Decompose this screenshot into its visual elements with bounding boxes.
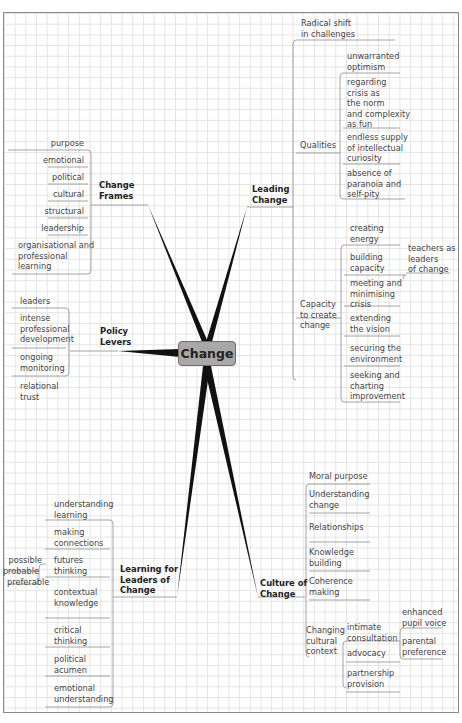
leaf-absence-of-paranoia[interactable]: absence of paranoia and self-pity xyxy=(347,168,401,200)
leaf-partnership-provision[interactable]: partnership provision xyxy=(347,668,394,689)
leaf-text-line: critical xyxy=(54,625,87,636)
leaf-understanding-change[interactable]: Understanding change xyxy=(309,489,369,510)
branch-label-line: Learning for xyxy=(120,564,178,575)
leaf-meeting-minimising-crisis[interactable]: meeting and minimising crisis xyxy=(350,278,402,310)
leaf-parental-preference[interactable]: parental preference xyxy=(402,636,446,657)
leaf-knowledge-building[interactable]: Knowledge building xyxy=(309,547,354,568)
leaf-text-line: creating xyxy=(350,223,384,234)
leaf-text-line: organisational and xyxy=(18,240,94,251)
leaf-critical-thinking[interactable]: critical thinking xyxy=(54,625,87,646)
branch-label-line: Change xyxy=(99,180,134,191)
node-text-line: Capacity xyxy=(300,299,337,310)
leaf-text-line: thinking xyxy=(54,566,87,577)
leaf-leaders[interactable]: leaders xyxy=(20,296,50,307)
leaf-text-line: and complexity xyxy=(347,109,410,120)
leaf-text-line: acumen xyxy=(54,665,87,676)
central-topic-change[interactable]: Change xyxy=(178,341,236,366)
leaf-text-line: Coherence xyxy=(309,576,353,587)
leaf-text-line: of intellectual xyxy=(347,143,408,154)
leaf-ongoing-monitoring[interactable]: ongoing monitoring xyxy=(20,352,65,373)
node-text-line: Changing xyxy=(306,625,345,636)
branch-leading-change[interactable]: Leading Change xyxy=(252,184,290,205)
leaf-text-line: charting xyxy=(350,381,405,392)
leaf-text-line: political xyxy=(54,654,87,665)
leaf-text-line: paranoia and xyxy=(347,179,401,190)
node-changing-cultural-context[interactable]: Changing cultural context xyxy=(306,625,345,657)
leaf-relationships[interactable]: Relationships xyxy=(309,522,364,533)
leaf-emotional[interactable]: emotional xyxy=(30,155,84,166)
node-radical-shift[interactable]: Radical shift in challenges xyxy=(301,18,355,39)
leaf-text-line: optimism xyxy=(347,62,399,73)
leaf-purpose[interactable]: purpose xyxy=(30,138,84,149)
leaf-teachers-as-leaders[interactable]: teachers as leaders of change xyxy=(408,243,456,275)
leaf-contextual-knowledge[interactable]: contextual knowledge xyxy=(54,587,98,608)
leaf-advocacy[interactable]: advocacy xyxy=(347,648,386,659)
leaf-regarding-crisis[interactable]: regarding crisis as the norm and complex… xyxy=(347,77,410,130)
leaf-text-line: energy xyxy=(350,234,384,245)
branch-change-frames[interactable]: Change Frames xyxy=(99,180,134,201)
leaf-cultural[interactable]: cultural xyxy=(30,189,84,200)
leaf-coherence-making[interactable]: Coherence making xyxy=(309,576,353,597)
leaf-relational-trust[interactable]: relational trust xyxy=(20,381,59,402)
leaf-seeking-charting-improvement[interactable]: seeking and charting improvement xyxy=(350,370,405,402)
leaf-building-capacity[interactable]: building capacity xyxy=(350,252,385,273)
branch-label-line: Levers xyxy=(100,337,131,348)
leaf-extending-vision[interactable]: extending the vision xyxy=(350,313,391,334)
node-text-line: context xyxy=(306,646,345,657)
node-text-line: change xyxy=(300,320,337,331)
leaf-text-line: enhanced xyxy=(402,607,446,618)
node-text-line: to create xyxy=(300,310,337,321)
leaf-text-line: crisis as xyxy=(347,88,410,99)
leaf-probable[interactable]: probable xyxy=(2,566,39,577)
leaf-political[interactable]: political xyxy=(30,172,84,183)
leaf-possible[interactable]: possible xyxy=(6,555,42,566)
leaf-leadership[interactable]: leadership xyxy=(30,223,84,234)
node-capacity-to-create-change[interactable]: Capacity to create change xyxy=(300,299,337,331)
node-qualities[interactable]: Qualities xyxy=(300,140,336,151)
leaf-text-line: ongoing xyxy=(20,352,65,363)
leaf-organisational-learning[interactable]: organisational and professional learning xyxy=(18,240,94,272)
leaf-text-line: building xyxy=(309,558,354,569)
leaf-enhanced-pupil-voice[interactable]: enhanced pupil voice xyxy=(402,607,446,628)
leaf-emotional-understanding[interactable]: emotional understanding xyxy=(54,683,114,704)
leaf-securing-environment[interactable]: securing the environment xyxy=(350,343,402,364)
branch-label-line: Change xyxy=(252,195,290,206)
leaf-text-line: understanding xyxy=(54,694,114,705)
branch-label-line: Culture of xyxy=(260,578,307,589)
leaf-text-line: pupil voice xyxy=(402,618,446,629)
branch-label-line: Leaders of xyxy=(120,575,178,586)
leaf-making-connections[interactable]: making connections xyxy=(54,527,103,548)
leaf-text-line: of change xyxy=(408,264,456,275)
branch-label-line: Frames xyxy=(99,191,134,202)
leaf-text-line: partnership xyxy=(347,668,394,679)
leaf-understanding-learning[interactable]: understanding learning xyxy=(54,499,114,520)
branch-learning-for-leaders[interactable]: Learning for Leaders of Change xyxy=(120,564,178,596)
leaf-text-line: monitoring xyxy=(20,363,65,374)
branch-culture-of-change[interactable]: Culture of Change xyxy=(260,578,307,599)
leaf-intimate-consultation[interactable]: intimate consultation xyxy=(347,622,397,643)
leaf-text-line: preference xyxy=(402,647,446,658)
leaf-futures-thinking[interactable]: futures thinking xyxy=(54,555,87,576)
leaf-text-line: knowledge xyxy=(54,598,98,609)
node-text-line: cultural xyxy=(306,636,345,647)
leaf-creating-energy[interactable]: creating energy xyxy=(350,223,384,244)
leaf-text-line: learning xyxy=(54,510,114,521)
leaf-preferable[interactable]: preferable xyxy=(7,577,49,588)
leaf-text-line: minimising xyxy=(350,289,402,300)
leaf-text-line: improvement xyxy=(350,391,405,402)
leaf-text-line: absence of xyxy=(347,168,401,179)
leaf-text-line: provision xyxy=(347,679,394,690)
leaf-political-acumen[interactable]: political acumen xyxy=(54,654,87,675)
leaf-structural[interactable]: structural xyxy=(30,206,84,217)
leaf-text-line: regarding xyxy=(347,77,410,88)
leaf-intense-professional-development[interactable]: intense professional development xyxy=(20,313,74,345)
leaf-text-line: parental xyxy=(402,636,446,647)
leaf-text-line: securing the xyxy=(350,343,402,354)
leaf-text-line: the vision xyxy=(350,324,391,335)
leaf-endless-supply[interactable]: endless supply of intellectual curiosity xyxy=(347,132,408,164)
branch-policy-levers[interactable]: Policy Levers xyxy=(100,326,131,347)
leaf-moral-purpose[interactable]: Moral purpose xyxy=(309,471,368,482)
leaf-text-line: intimate xyxy=(347,622,397,633)
leaf-text-line: intense xyxy=(20,313,74,324)
leaf-unwarranted-optimism[interactable]: unwarranted optimism xyxy=(347,51,399,72)
